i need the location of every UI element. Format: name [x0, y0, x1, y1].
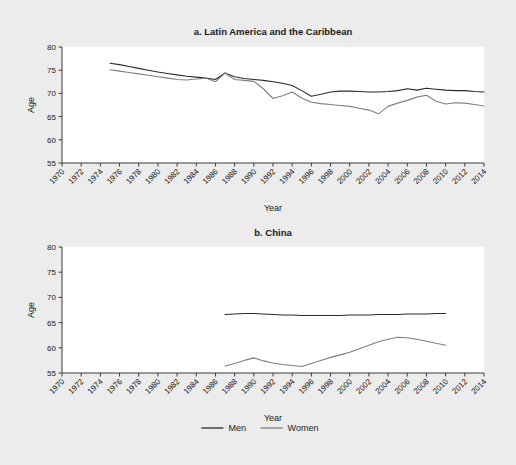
latin-america-y-tick-label: 55: [47, 159, 56, 168]
china-y-tick-label: 65: [47, 319, 56, 328]
latin-america-title: a. Latin America and the Caribbean: [194, 26, 353, 37]
china-x-axis-label: Year: [264, 413, 282, 423]
legend-label-men: Men: [228, 423, 246, 433]
chart-canvas: a. Latin America and the Caribbean556065…: [0, 0, 516, 465]
legend-label-women: Women: [288, 423, 319, 433]
china-y-axis-label: Age: [26, 302, 36, 318]
latin-america-plot-area: [62, 47, 484, 163]
latin-america-y-tick-label: 60: [47, 136, 56, 145]
china-y-tick-label: 55: [47, 369, 56, 378]
latin-america-y-tick-label: 75: [47, 66, 56, 75]
latin-america-y-tick-label: 80: [47, 43, 56, 52]
china-plot-area: [62, 247, 484, 373]
latin-america-x-axis-label: Year: [264, 203, 282, 213]
latin-america-y-tick-label: 65: [47, 113, 56, 122]
latin-america-y-tick-label: 70: [47, 89, 56, 98]
china-title: b. China: [254, 227, 292, 238]
latin-america-y-axis-label: Age: [26, 97, 36, 113]
china-y-tick-label: 80: [47, 243, 56, 252]
china-y-tick-label: 75: [47, 268, 56, 277]
china-y-tick-label: 70: [47, 293, 56, 302]
china-y-tick-label: 60: [47, 344, 56, 353]
figure-container: a. Latin America and the Caribbean556065…: [0, 0, 516, 465]
